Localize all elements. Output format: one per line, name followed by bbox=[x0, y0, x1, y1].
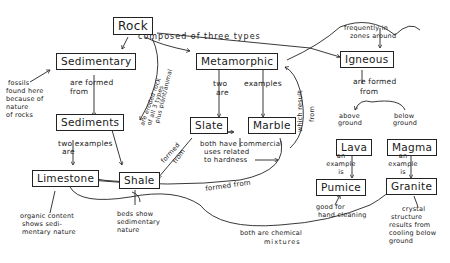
label-sed-formed-2: from bbox=[70, 88, 88, 96]
label-above-2: ground bbox=[338, 120, 362, 128]
label-chemical-2: mixtures bbox=[264, 239, 301, 247]
label-commercial-3: to hardness bbox=[204, 157, 247, 165]
label-frequently-2: zones around bbox=[350, 33, 396, 41]
label-ign-formed-1: are formed bbox=[353, 78, 396, 86]
label-below-2: ground bbox=[393, 120, 417, 128]
node-limestone: Limestone bbox=[32, 170, 99, 187]
node-igneous: Igneous bbox=[340, 51, 394, 68]
label-meta-two-1: two bbox=[213, 80, 227, 88]
node-granite: Granite bbox=[386, 178, 437, 195]
label-meta-examples: examples bbox=[244, 80, 282, 88]
label-magma-ex-3: is bbox=[393, 169, 413, 177]
label-fossils-5: of rocks bbox=[6, 112, 33, 120]
node-shale: Shale bbox=[119, 172, 160, 189]
label-ign-formed-2: from bbox=[360, 88, 378, 96]
label-sed-two-2: are bbox=[62, 148, 75, 156]
label-meta-two-2: are bbox=[216, 89, 229, 97]
label-organic-3: mentary nature bbox=[22, 229, 76, 237]
node-pumice: Pumice bbox=[316, 179, 366, 196]
label-lava-ex-3: is bbox=[331, 169, 351, 177]
label-which-result-2: from bbox=[309, 106, 317, 122]
label-beds-3: nature bbox=[117, 227, 140, 235]
concept-map: Rock Sedimentary Metamorphic Igneous Sed… bbox=[0, 0, 450, 263]
label-which-result-1: which result bbox=[297, 90, 305, 132]
node-slate: Slate bbox=[190, 117, 228, 134]
label-pumice-2: hand cleaning bbox=[318, 212, 367, 220]
node-metamorphic: Metamorphic bbox=[196, 53, 278, 70]
label-sed-formed-1: are formed bbox=[70, 79, 113, 87]
node-marble: Marble bbox=[248, 117, 296, 134]
label-chemical-1: both are chemical bbox=[240, 230, 302, 238]
node-sedimentary: Sedimentary bbox=[56, 53, 136, 70]
node-sediments: Sediments bbox=[56, 114, 124, 131]
label-granite-5: ground bbox=[389, 238, 413, 246]
label-composed: composed of three types bbox=[138, 33, 261, 41]
